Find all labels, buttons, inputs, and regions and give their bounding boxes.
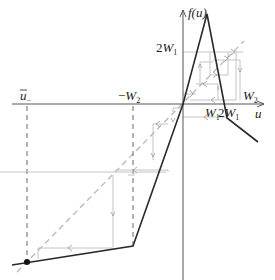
fixed-point-dot bbox=[24, 259, 30, 265]
x-tick-ubar-minus: u− bbox=[20, 88, 32, 105]
x-tick-W2: W2 bbox=[243, 88, 258, 105]
y-tick-2W1: 2W1 bbox=[156, 40, 177, 57]
diagram-canvas: f(u) u 2W1 W1 2W1 W2 −W2 u− bbox=[0, 0, 275, 280]
x-axis-label: u bbox=[255, 106, 262, 121]
y-axis-label: f(u) bbox=[188, 5, 207, 20]
x-tick-2W1: 2W1 bbox=[218, 105, 239, 122]
cobweb-arrows bbox=[68, 49, 242, 251]
cobweb-path bbox=[0, 52, 243, 259]
x-tick-neg-W2: −W2 bbox=[118, 88, 140, 105]
identity-diagonal bbox=[17, 41, 244, 272]
